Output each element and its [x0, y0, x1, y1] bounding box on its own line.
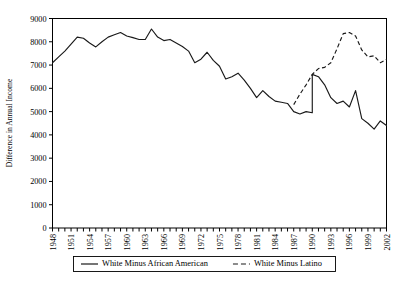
y-axis-tick-label: 1000 [30, 201, 46, 210]
x-axis-tick-label: 1972 [197, 234, 206, 250]
x-axis-tick-label: 1993 [327, 234, 336, 250]
y-axis-tick-label: 9000 [30, 15, 46, 24]
y-axis-label: Difference in Annual Income [5, 78, 14, 167]
x-axis-tick-label: 1996 [345, 234, 354, 250]
chart-container: Difference in Annual Income 010002000300… [0, 0, 405, 283]
x-axis-ticks: 1948195119541957196019631966196919721975… [49, 228, 392, 250]
x-axis-tick-label: 1948 [49, 234, 58, 250]
x-axis-tick-label: 1951 [67, 234, 76, 250]
x-axis-tick-label: 1969 [178, 234, 187, 250]
y-axis-tick-label: 7000 [30, 61, 46, 70]
x-axis-tick-label: 1978 [234, 234, 243, 250]
x-axis-tick-label: 1987 [290, 234, 299, 250]
data-series-group [53, 29, 387, 129]
y-axis-tick-label: 5000 [30, 108, 46, 117]
y-axis-title: Difference in Annual Income [5, 78, 14, 167]
y-axis-tick-label: 8000 [30, 38, 46, 47]
series-white-minus-latino [294, 32, 387, 104]
y-axis-tick-label: 3000 [30, 154, 46, 163]
chart-legend: White Minus African AmericanWhite Minus … [74, 257, 336, 272]
line-chart: Difference in Annual Income 010002000300… [0, 0, 405, 283]
x-axis-tick-label: 1981 [253, 234, 262, 250]
x-axis-tick-label: 1960 [123, 234, 132, 250]
legend-label: White Minus African American [102, 259, 209, 268]
y-axis-tick-label: 0 [42, 224, 46, 233]
x-axis-tick-label: 1999 [364, 234, 373, 250]
x-axis-tick-label: 2002 [383, 234, 392, 250]
y-axis-tick-label: 2000 [30, 177, 46, 186]
x-axis-tick-label: 1966 [160, 234, 169, 250]
y-axis-tick-label: 4000 [30, 131, 46, 140]
series-white-minus-african-american [53, 29, 387, 129]
x-axis-tick-label: 1963 [141, 234, 150, 250]
legend-label: White Minus Latino [254, 259, 322, 268]
x-axis-tick-label: 1990 [308, 234, 317, 250]
x-axis-tick-label: 1954 [86, 234, 95, 250]
y-axis-ticks: 0100020003000400050006000700080009000 [30, 15, 52, 234]
y-axis-tick-label: 6000 [30, 84, 46, 93]
x-axis-tick-label: 1957 [104, 234, 113, 250]
x-axis-tick-label: 1984 [271, 234, 280, 250]
x-axis-tick-label: 1975 [216, 234, 225, 250]
